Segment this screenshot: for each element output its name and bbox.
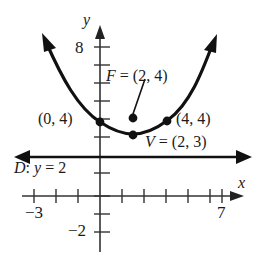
focus-point-dot bbox=[129, 114, 138, 123]
focus-leader-line bbox=[133, 79, 145, 114]
vertex-point-dot bbox=[129, 131, 138, 140]
graph-canvas bbox=[0, 0, 265, 266]
directrix-label: D: y = 2 bbox=[14, 160, 66, 176]
vertex-label-rest: = (2, 3) bbox=[155, 133, 207, 150]
y-tick-label-8: 8 bbox=[75, 39, 84, 56]
vertex-label-letter: V bbox=[145, 133, 155, 150]
x-tick-label-7: 7 bbox=[217, 204, 226, 221]
x-tick-label-minus3: −3 bbox=[25, 204, 43, 221]
parabola-figure: y x 8 −2 −3 7 F = (2, 4) (0, 4) (4, 4) V… bbox=[0, 0, 265, 266]
y-tick-label-minus2: −2 bbox=[68, 222, 86, 239]
right-point-label: (4, 4) bbox=[176, 111, 211, 127]
y-axis bbox=[95, 25, 105, 252]
focus-label-letter: F bbox=[106, 67, 116, 84]
left-point-dot bbox=[96, 118, 105, 127]
y-axis-label: y bbox=[83, 12, 90, 28]
focus-label: F = (2, 4) bbox=[106, 68, 167, 84]
x-axis-label: x bbox=[238, 175, 245, 191]
left-point-label: (0, 4) bbox=[38, 111, 73, 127]
right-point-dot bbox=[163, 117, 172, 126]
vertex-label: V = (2, 3) bbox=[145, 134, 206, 150]
directrix-label-colon: : bbox=[26, 159, 34, 176]
focus-label-rest: = (2, 4) bbox=[116, 67, 168, 84]
directrix-label-rest: = 2 bbox=[41, 159, 66, 176]
directrix-label-letter: D bbox=[14, 159, 26, 176]
